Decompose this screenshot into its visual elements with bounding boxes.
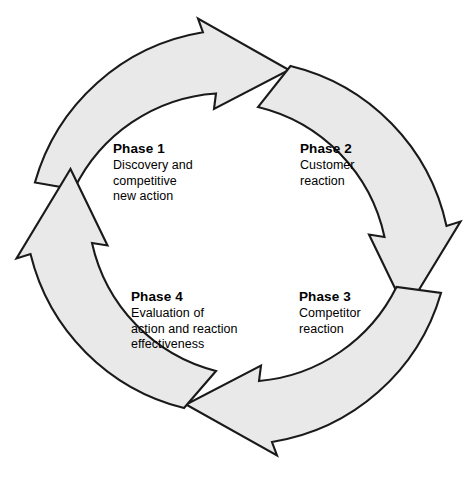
- phase-1-description: Discovery and competitive new action: [113, 158, 193, 205]
- phase-1-title: Phase 1: [113, 140, 193, 157]
- cycle-arrows-graphic: [0, 0, 471, 488]
- phase-2-title: Phase 2: [300, 140, 355, 157]
- phase-4-description: Evaluation of action and reaction effect…: [131, 306, 238, 353]
- cycle-diagram: Phase 1 Discovery and competitive new ac…: [0, 0, 471, 488]
- arrow-right-icon: [258, 66, 461, 311]
- phase-3-label: Phase 3 Competitor reaction: [299, 288, 361, 337]
- phase-3-description: Competitor reaction: [299, 306, 361, 337]
- phase-4-label: Phase 4 Evaluation of action and reactio…: [131, 288, 238, 353]
- phase-4-title: Phase 4: [131, 288, 238, 305]
- phase-3-title: Phase 3: [299, 288, 361, 305]
- phase-1-label: Phase 1 Discovery and competitive new ac…: [113, 140, 193, 205]
- phase-2-label: Phase 2 Customer reaction: [300, 140, 355, 189]
- phase-2-description: Customer reaction: [300, 158, 355, 189]
